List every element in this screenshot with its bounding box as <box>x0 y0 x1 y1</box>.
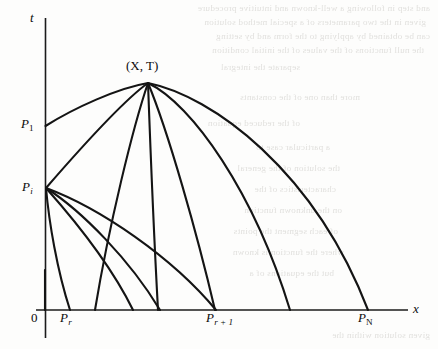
point-label-pi: Pi <box>22 180 33 196</box>
pr1-base: P <box>206 310 214 325</box>
pr-base: P <box>60 310 68 325</box>
pr-subscript: r <box>68 317 72 327</box>
pr1-subscript: r + 1 <box>214 317 233 327</box>
pi-subscript: i <box>30 186 33 196</box>
apex-point-label: (X, T) <box>126 59 158 72</box>
pn-subscript: N <box>366 317 373 327</box>
t-axis-label: t <box>30 11 34 24</box>
origin-label: 0 <box>31 311 38 324</box>
pi-base: P <box>22 179 30 194</box>
p1-base: P <box>21 116 29 131</box>
characteristic-curve <box>46 188 133 310</box>
characteristic-curve <box>46 188 70 310</box>
point-label-p1: P1 <box>21 117 34 133</box>
characteristic-curve <box>148 83 158 310</box>
characteristic-curves <box>45 83 368 310</box>
figure-container: and step in following a well-known and i… <box>0 0 438 349</box>
pn-base: P <box>358 310 366 325</box>
characteristic-curve <box>148 83 368 310</box>
characteristic-curve <box>95 83 148 310</box>
axis-lines <box>36 18 408 338</box>
p1-subscript: 1 <box>29 123 34 133</box>
point-label-pr: Pr <box>60 311 72 327</box>
point-label-pr-plus-1: Pr + 1 <box>206 311 233 327</box>
characteristic-curve <box>148 83 215 310</box>
characteristics-plot <box>0 0 438 349</box>
characteristic-curve <box>46 83 149 126</box>
characteristic-curve <box>148 83 290 310</box>
x-axis-label: x <box>413 302 419 315</box>
point-label-pn: PN <box>358 311 373 327</box>
